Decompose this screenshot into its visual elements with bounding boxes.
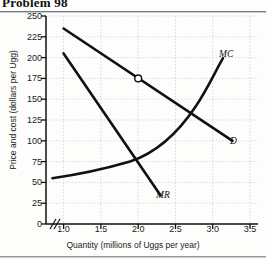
x-tick-label: 3.0 xyxy=(206,224,219,234)
x-tick-label: 1.0 xyxy=(57,224,70,234)
curve-label-d: D xyxy=(230,136,237,146)
y-tick-label: 225 xyxy=(14,32,42,42)
y-tick-label: 150 xyxy=(14,94,42,104)
x-tick-label: 2.0 xyxy=(132,224,145,234)
curve-label-mc: MC xyxy=(219,49,233,59)
profit-maximizing-point-marker xyxy=(135,75,142,82)
x-axis-title: Quantity (millions of Uggs per year) xyxy=(0,240,266,250)
y-tick-label: 125 xyxy=(14,115,42,125)
y-tick-label: 200 xyxy=(14,53,42,63)
y-tick-label: 100 xyxy=(14,136,42,146)
curve-demand xyxy=(64,29,233,141)
grid-lines xyxy=(46,16,258,224)
y-tick-label: 175 xyxy=(14,73,42,83)
x-tick-label: 2.5 xyxy=(169,224,182,234)
x-tick-labels: 1.0 1.5 2.0 2.5 3.0 3.5 xyxy=(0,224,266,238)
curve-label-mr: MR xyxy=(156,190,170,200)
x-tick-label: 1.5 xyxy=(95,224,108,234)
y-tick-label: 75 xyxy=(14,157,42,167)
y-tick-label: 250 xyxy=(14,11,42,21)
y-tick-label: 25 xyxy=(14,198,42,208)
y-axis-title: Price and cost (dollars per Ugg) xyxy=(8,40,18,180)
bottom-divider-shadow xyxy=(0,257,266,258)
y-tick-label: 50 xyxy=(14,177,42,187)
chart-figure: Problem 98 xyxy=(0,0,266,260)
x-tick-label: 3.5 xyxy=(244,224,257,234)
